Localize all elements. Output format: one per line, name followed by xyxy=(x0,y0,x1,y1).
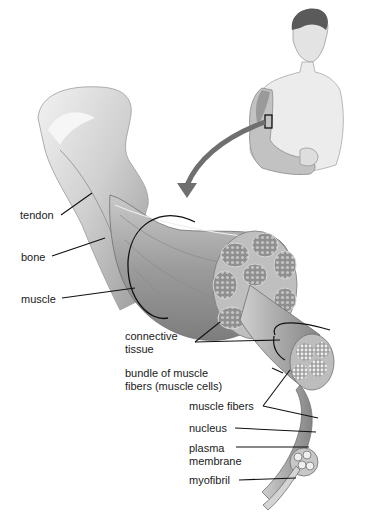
label-plasma-membrane-line1: plasma xyxy=(189,442,224,455)
label-connective-tissue-line2: tissue xyxy=(125,343,154,356)
label-muscle-fibers: muscle fibers xyxy=(189,400,254,413)
muscle-anatomy-diagram: tendon bone muscle connective tissue bun… xyxy=(0,0,373,521)
label-muscle: muscle xyxy=(21,293,56,306)
label-nucleus: nucleus xyxy=(189,422,227,435)
label-bundle-line1: bundle of muscle xyxy=(125,367,208,380)
arrow-head xyxy=(177,183,197,198)
label-connective-tissue-line1: connective xyxy=(125,330,178,343)
label-bundle-line2: fibers (muscle cells) xyxy=(125,380,222,393)
human-figure xyxy=(250,8,344,174)
label-plasma-membrane-line2: membrane xyxy=(189,455,242,468)
diagram-illustration xyxy=(0,0,373,521)
label-tendon: tendon xyxy=(20,209,54,222)
label-bone: bone xyxy=(21,251,45,264)
label-myofibril: myofibril xyxy=(189,474,230,487)
